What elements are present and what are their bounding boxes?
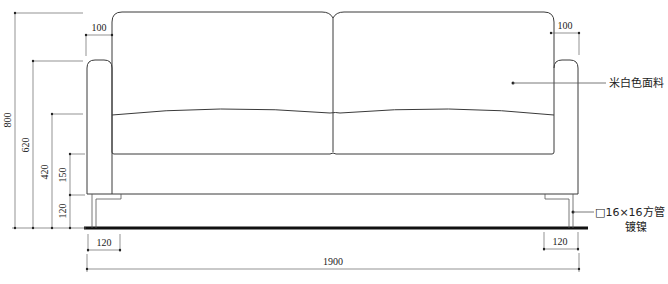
right-arm [554,60,578,194]
sofa-elevation-drawing: 800 620 420 150 120 100 100 120 120 1900… [0,0,668,284]
dim-arm-width-right: 100 [558,20,573,31]
leg-spec-annotation-2: 镀镍 [625,220,647,234]
dim-leg-offset-left: 120 [97,237,112,248]
dim-leg-offset-right: 120 [553,236,568,247]
fabric-annotation: 米白色面料 [609,76,664,90]
dim-arm-width-left: 100 [92,22,107,33]
dim-seat-height: 420 [39,165,50,180]
left-leg [92,194,121,228]
dim-overall-width: 1900 [323,256,343,267]
leg-spec-annotation-1: □16×16方管 [595,205,665,219]
left-arm [87,60,112,194]
dim-leg-height: 120 [57,204,68,219]
dim-arm-height: 620 [20,138,31,153]
right-leg [545,194,573,228]
dim-cushion-base: 150 [57,168,68,183]
dim-overall-height: 800 [2,113,13,128]
